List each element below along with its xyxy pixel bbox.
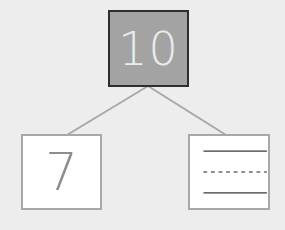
- whole-value: 10: [118, 22, 179, 76]
- connector-left: [67, 86, 148, 135]
- part-box-left: 7: [21, 134, 102, 210]
- part-box-right-answer[interactable]: [188, 134, 270, 210]
- part-value-left: 7: [45, 142, 78, 202]
- writing-lines-icon: [190, 136, 268, 208]
- connector-right: [148, 86, 226, 135]
- whole-box: 10: [108, 10, 189, 87]
